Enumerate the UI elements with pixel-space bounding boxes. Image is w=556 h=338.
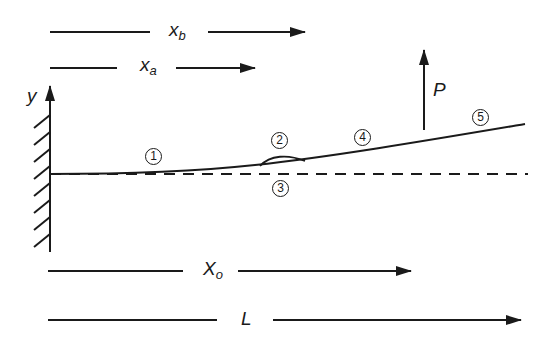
label-xa: xa bbox=[140, 55, 157, 77]
region-marker-2: 2 bbox=[271, 132, 288, 149]
region-marker-1: 1 bbox=[145, 148, 162, 165]
label-xb-main: x bbox=[169, 19, 179, 40]
fixed-support-hatching bbox=[34, 115, 50, 247]
region-marker-5: 5 bbox=[472, 109, 489, 126]
label-xo-sub: o bbox=[216, 267, 223, 282]
beam-diagram bbox=[0, 0, 556, 338]
label-xa-sub: a bbox=[150, 63, 157, 78]
label-p: P bbox=[433, 80, 446, 99]
label-xo-main: X bbox=[203, 258, 216, 279]
label-xb-sub: b bbox=[179, 28, 186, 43]
label-xb: xb bbox=[169, 20, 186, 42]
region-marker-3: 3 bbox=[272, 180, 289, 197]
region-marker-4: 4 bbox=[354, 129, 371, 146]
label-l: L bbox=[241, 309, 252, 328]
label-xa-main: x bbox=[140, 54, 150, 75]
label-y: y bbox=[27, 86, 37, 105]
deflected-beam bbox=[50, 124, 525, 174]
label-xo: Xo bbox=[203, 259, 223, 281]
